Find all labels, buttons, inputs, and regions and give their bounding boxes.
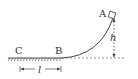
block-icon — [108, 11, 115, 18]
ground-surface — [8, 58, 62, 61]
curved-track — [62, 18, 113, 58]
label-height: h — [110, 32, 116, 43]
diagram-canvas: C B A h l — [0, 0, 138, 79]
label-a: A — [98, 8, 107, 19]
label-b: B — [55, 45, 62, 56]
label-c: C — [15, 45, 23, 56]
label-length: l — [38, 64, 41, 75]
